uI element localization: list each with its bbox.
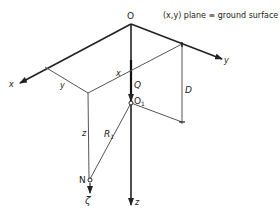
x-distance-label: x: [115, 69, 121, 78]
y-distance-label: y: [59, 81, 65, 90]
z-axis-label: z: [134, 198, 140, 207]
depth-label: D: [185, 85, 192, 95]
point-n-label: N: [79, 175, 86, 185]
y-axis-label: y: [223, 56, 229, 65]
source-point-label: O1: [134, 96, 145, 107]
z-projection-line: [88, 93, 89, 178]
origin-label: O: [127, 11, 134, 21]
x-axis: [20, 24, 131, 83]
y-axis: [131, 24, 222, 59]
displacement-label: ζ: [84, 195, 91, 206]
radius-label: R1: [104, 129, 114, 140]
title-label: (x,y) plane ≡ ground surface: [163, 11, 278, 20]
z-distance-label: z: [81, 129, 87, 138]
radius-line: [90, 103, 131, 179]
diagram-canvas: O (x,y) plane ≡ ground surface x y z x y…: [0, 0, 280, 215]
y-projection-line: [45, 67, 88, 93]
point-n-marker: [88, 178, 92, 182]
source-point-marker: [129, 101, 133, 105]
force-label: Q: [134, 80, 141, 90]
x-axis-label: x: [8, 80, 14, 89]
